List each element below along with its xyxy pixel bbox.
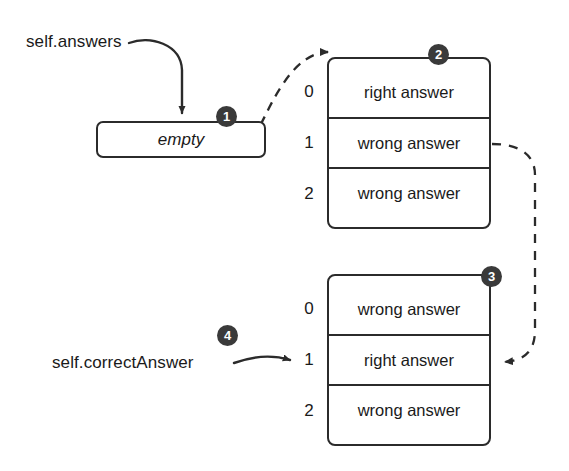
array-cell: wrong answer — [329, 167, 489, 218]
index-label: 0 — [299, 283, 319, 334]
array-cell: wrong answer — [329, 117, 489, 168]
index-column-array-two: 0 1 2 — [299, 274, 319, 446]
step-badge-one: 1 — [216, 106, 237, 127]
array-cell: wrong answer — [329, 384, 489, 435]
index-label: 1 — [299, 117, 319, 168]
empty-value-box: empty — [96, 121, 266, 158]
connector-self-answers-to-empty-box — [129, 40, 182, 113]
label-self-answers: self.answers — [26, 32, 122, 52]
index-label: 2 — [299, 386, 319, 437]
connector-array-one-to-array-two — [492, 144, 535, 362]
array-box-answers-shuffled: wrong answer right answer wrong answer — [327, 274, 491, 446]
empty-value-text: empty — [158, 130, 204, 150]
array-cell: right answer — [329, 334, 489, 385]
connector-self-correct-answer-to-index — [234, 357, 290, 363]
diagram-canvas: self.answers self.correctAnswer empty 0 … — [0, 0, 569, 471]
step-badge-four: 4 — [217, 325, 238, 346]
index-label: 1 — [299, 334, 319, 385]
index-column-array-one: 0 1 2 — [299, 57, 319, 229]
label-self-correct-answer: self.correctAnswer — [52, 353, 194, 373]
step-badge-three: 3 — [481, 266, 502, 287]
array-cell: wrong answer — [329, 285, 489, 334]
step-badge-two: 2 — [428, 44, 449, 65]
index-label: 2 — [299, 169, 319, 220]
array-cell: right answer — [329, 68, 489, 117]
index-label: 0 — [299, 66, 319, 117]
array-box-answers-unshuffled: right answer wrong answer wrong answer — [327, 57, 491, 229]
